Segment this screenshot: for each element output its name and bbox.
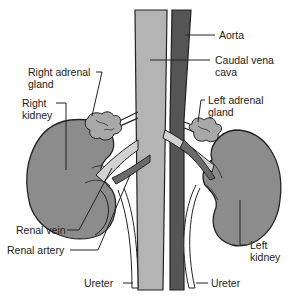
label-left-kidney-1: Left <box>250 239 268 251</box>
label-renal-artery: Renal artery <box>7 244 64 256</box>
label-renal-vein: Renal vein <box>16 224 66 236</box>
kidney-anatomy-diagram: Aorta Caudal vena cava Left adrenal glan… <box>0 0 299 297</box>
label-left-adrenal-1: Left adrenal <box>208 94 263 106</box>
label-right-adrenal-2: gland <box>28 78 54 90</box>
label-left-kidney-2: kidney <box>250 251 280 263</box>
left-renal-artery <box>180 140 215 180</box>
right-adrenal-gland <box>85 112 121 140</box>
left-ureter <box>184 185 200 288</box>
label-right-kidney-2: kidney <box>22 109 52 121</box>
right-ureter <box>118 188 138 288</box>
label-left-adrenal-2: gland <box>208 106 234 118</box>
label-caudal-vena-cava-1: Caudal vena <box>215 54 274 66</box>
left-kidney <box>203 130 281 246</box>
label-caudal-vena-cava-2: cava <box>215 66 237 78</box>
label-right-adrenal-1: Right adrenal <box>28 66 90 78</box>
label-right-kidney-1: Right <box>22 97 47 109</box>
label-aorta: Aorta <box>219 29 244 41</box>
label-ureter-right-side: Ureter <box>211 277 240 289</box>
label-ureter-left-side: Ureter <box>84 277 113 289</box>
caudal-vena-cava <box>135 10 167 290</box>
